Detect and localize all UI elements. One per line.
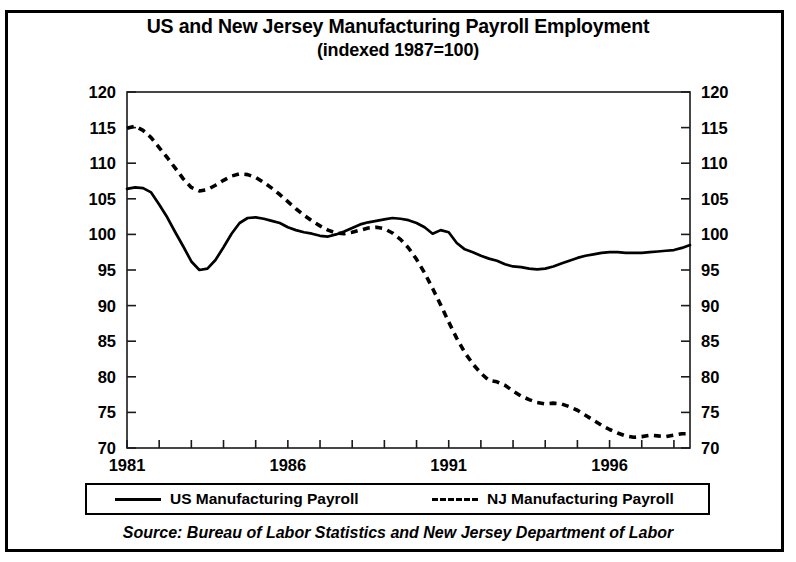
svg-text:1991: 1991 <box>430 456 467 474</box>
svg-text:105: 105 <box>88 190 116 208</box>
legend-item-us: US Manufacturing Payroll <box>115 485 359 513</box>
series-line-nj <box>127 126 690 437</box>
data-series-group <box>127 126 690 437</box>
svg-text:100: 100 <box>701 225 729 243</box>
svg-text:70: 70 <box>98 439 116 457</box>
svg-text:80: 80 <box>98 368 116 386</box>
svg-text:115: 115 <box>701 119 728 137</box>
svg-text:70: 70 <box>701 439 719 457</box>
svg-text:95: 95 <box>98 261 116 279</box>
series-line-us <box>127 187 690 270</box>
svg-text:120: 120 <box>88 83 116 101</box>
axis-ticks <box>127 92 690 448</box>
svg-text:85: 85 <box>98 332 116 350</box>
svg-text:90: 90 <box>701 297 719 315</box>
svg-text:1981: 1981 <box>109 456 146 474</box>
legend-label-us: US Manufacturing Payroll <box>170 490 359 508</box>
svg-text:80: 80 <box>701 368 719 386</box>
svg-text:1996: 1996 <box>591 456 628 474</box>
svg-text:75: 75 <box>701 403 719 421</box>
svg-text:100: 100 <box>88 225 116 243</box>
svg-text:85: 85 <box>701 332 719 350</box>
chart-canvas: 7070757580808585909095951001001051051101… <box>0 0 796 562</box>
svg-text:1986: 1986 <box>269 456 306 474</box>
svg-text:110: 110 <box>701 154 728 172</box>
legend-label-nj: NJ Manufacturing Payroll <box>487 490 674 508</box>
legend: US Manufacturing Payroll NJ Manufacturin… <box>85 483 710 515</box>
line-chart-svg: 7070757580808585909095951001001051051101… <box>0 0 796 562</box>
source-note: Source: Bureau of Labor Statistics and N… <box>0 524 796 542</box>
legend-item-nj: NJ Manufacturing Payroll <box>432 485 674 513</box>
svg-text:110: 110 <box>89 154 116 172</box>
svg-text:95: 95 <box>701 261 719 279</box>
svg-text:105: 105 <box>701 190 729 208</box>
svg-text:115: 115 <box>89 119 116 137</box>
svg-text:90: 90 <box>98 297 116 315</box>
legend-swatch-solid-line <box>115 498 161 501</box>
plot-frame <box>127 92 690 448</box>
svg-text:75: 75 <box>98 403 116 421</box>
legend-swatch-dashed-line <box>432 498 478 501</box>
svg-text:120: 120 <box>701 83 729 101</box>
axis-tick-labels: 7070757580808585909095951001001051051101… <box>88 83 728 474</box>
